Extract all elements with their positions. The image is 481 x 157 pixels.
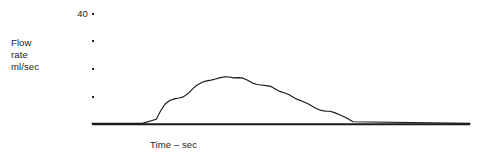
uroflowmetry-chart: Flow rate ml/sec 40 Time – sec xyxy=(0,0,481,157)
plot-area xyxy=(0,0,481,157)
flow-rate-curve xyxy=(92,77,470,124)
x-axis-title: Time – sec xyxy=(150,139,197,150)
